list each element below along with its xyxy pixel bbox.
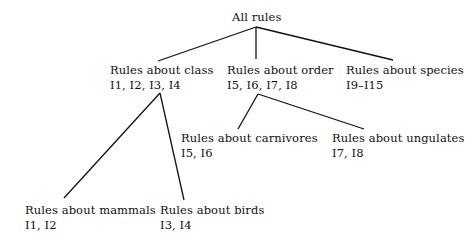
node-ids: I3, I4 xyxy=(160,218,264,233)
node-ids: I9–I15 xyxy=(346,78,464,93)
node-species: Rules about species I9–I15 xyxy=(346,63,464,93)
node-ids: I1, I2, I3, I4 xyxy=(110,78,213,93)
node-ids: I1, I2 xyxy=(25,218,156,233)
node-label: Rules about birds xyxy=(160,203,264,218)
edge-order-ungulates xyxy=(258,94,364,129)
node-ids: I5, I6 xyxy=(181,146,318,161)
node-birds: Rules about birds I3, I4 xyxy=(160,203,264,233)
node-ids: I7, I8 xyxy=(332,146,464,161)
edge-order-carnivores xyxy=(238,94,258,129)
node-ids: I5, I6, I7, I8 xyxy=(227,78,334,93)
edge-root-class xyxy=(158,27,256,61)
node-label: Rules about class xyxy=(110,63,213,78)
node-label: All rules xyxy=(232,10,282,25)
node-label: Rules about mammals xyxy=(25,203,156,218)
edge-root-species xyxy=(256,27,393,60)
rule-hierarchy-diagram: All rules Rules about class I1, I2, I3, … xyxy=(0,0,475,244)
edge-class-mammals xyxy=(64,93,160,198)
node-label: Rules about ungulates xyxy=(332,131,464,146)
node-class: Rules about class I1, I2, I3, I4 xyxy=(110,63,213,93)
node-label: Rules about carnivores xyxy=(181,131,318,146)
node-mammals: Rules about mammals I1, I2 xyxy=(25,203,156,233)
node-label: Rules about species xyxy=(346,63,464,78)
node-ungulates: Rules about ungulates I7, I8 xyxy=(332,131,464,161)
node-carnivores: Rules about carnivores I5, I6 xyxy=(181,131,318,161)
node-label: Rules about order xyxy=(227,63,334,78)
node-all-rules: All rules xyxy=(232,10,282,25)
node-order: Rules about order I5, I6, I7, I8 xyxy=(227,63,334,93)
